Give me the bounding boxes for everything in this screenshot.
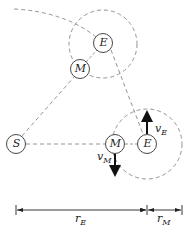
velocity-subscript: E <box>161 128 167 137</box>
earth-moon-orbit-diagram: S E M M E vE vM rE rM <box>0 0 187 232</box>
earth-upper-label: E <box>94 37 113 48</box>
diagram-canvas <box>0 0 187 232</box>
earth-orbit-arc <box>14 9 103 43</box>
moon-radius-arrow-right <box>175 208 181 212</box>
moon-velocity-label: vM <box>97 151 111 162</box>
earth-radius-arrow-left <box>17 208 23 212</box>
moon-radius-label: rM <box>157 213 170 224</box>
moon-to-earth-upper-line <box>86 50 97 62</box>
earth-lower-label: E <box>138 138 157 149</box>
moon-upper-label: M <box>71 63 90 74</box>
sun-to-moon-upper-line <box>22 77 74 136</box>
earth-radius-arrow-right <box>140 208 146 212</box>
earth-radius-label: rE <box>75 213 86 224</box>
sun-label: S <box>7 138 26 149</box>
radius-subscript: E <box>80 218 86 227</box>
earth-path-line <box>111 50 143 134</box>
moon-lower-label: M <box>106 138 125 149</box>
earth-velocity-label: vE <box>155 123 167 134</box>
radius-subscript: M <box>162 218 170 227</box>
moon-radius-arrow-left <box>148 208 154 212</box>
velocity-subscript: M <box>103 156 111 165</box>
